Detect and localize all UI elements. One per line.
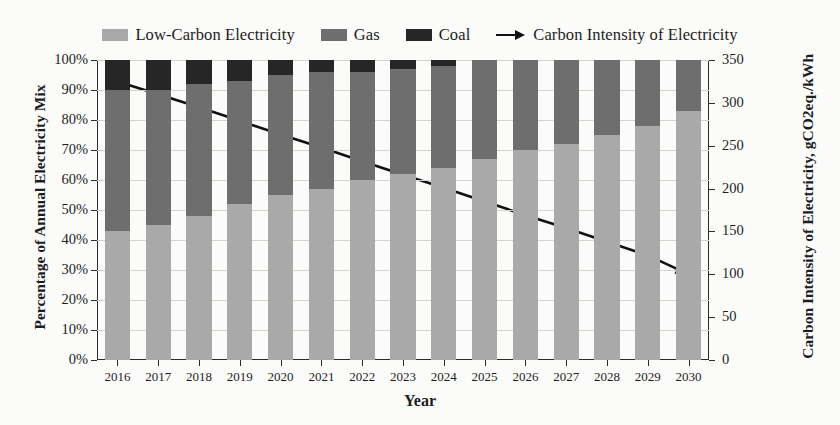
y-axis-right-tick-mark	[709, 146, 715, 147]
bar-segment-gas[interactable]	[431, 66, 456, 168]
bar-segment-coal[interactable]	[309, 60, 334, 72]
bar-segment-gas[interactable]	[594, 60, 619, 135]
bar-stack-2019[interactable]	[227, 60, 252, 360]
x-axis-tick-mark	[321, 360, 322, 366]
bar-segment-coal[interactable]	[268, 60, 293, 75]
bar-segment-coal[interactable]	[186, 60, 211, 84]
y-axis-left-tick-label: 90%	[61, 82, 88, 97]
bar-stack-2020[interactable]	[268, 60, 293, 360]
bar-segment-gas[interactable]	[268, 75, 293, 195]
legend-item-3[interactable]: Carbon Intensity of Electricity	[496, 25, 737, 45]
legend-item-0[interactable]: Low-Carbon Electricity	[102, 25, 294, 45]
x-axis-tick-label: 2030	[664, 369, 714, 385]
bar-segment-gas[interactable]	[513, 60, 538, 150]
bar-segment-gas[interactable]	[227, 81, 252, 204]
y-axis-right-tick-label: 250	[722, 138, 744, 153]
x-axis-tick-mark	[362, 360, 363, 366]
y-axis-right-tick-mark	[709, 231, 715, 232]
legend-item-label: Gas	[354, 25, 380, 45]
bar-segment-gas[interactable]	[186, 84, 211, 216]
bar-stack-2022[interactable]	[350, 60, 375, 360]
bar-segment-gas[interactable]	[105, 90, 130, 231]
bar-segment-gas[interactable]	[472, 60, 497, 159]
bar-segment-low-carbon-electricity[interactable]	[513, 150, 538, 360]
y-axis-right-tick-mark	[709, 317, 715, 318]
bar-segment-low-carbon-electricity[interactable]	[472, 159, 497, 360]
bar-segment-gas[interactable]	[676, 60, 701, 111]
y-axis-left-tick-label: 100%	[54, 52, 88, 67]
bar-stack-2030[interactable]	[676, 60, 701, 360]
bar-segment-low-carbon-electricity[interactable]	[350, 180, 375, 360]
legend-swatch-icon	[102, 29, 128, 41]
bar-stack-2023[interactable]	[390, 60, 415, 360]
bar-segment-gas[interactable]	[554, 60, 579, 144]
x-axis-tick-mark	[444, 360, 445, 366]
y-axis-left-tick-label: 50%	[61, 202, 88, 217]
y-axis-left-tick-label: 30%	[61, 262, 88, 277]
bar-segment-coal[interactable]	[227, 60, 252, 81]
legend-swatch-icon	[321, 29, 347, 41]
legend-item-2[interactable]: Coal	[406, 25, 471, 45]
y-axis-right-tick-label: 100	[722, 266, 744, 281]
bar-stack-2016[interactable]	[105, 60, 130, 360]
y-axis-left-tick-mark	[91, 120, 97, 121]
bar-segment-gas[interactable]	[146, 90, 171, 225]
x-axis-tick-mark	[240, 360, 241, 366]
y-axis-left-tick-label: 40%	[61, 232, 88, 247]
plot-area: 0%10%20%30%40%50%60%70%80%90%100%0501001…	[97, 60, 709, 360]
legend-item-label: Coal	[439, 25, 471, 45]
bar-stack-2021[interactable]	[309, 60, 334, 360]
y-axis-right-tick-label: 200	[722, 181, 744, 196]
bar-segment-low-carbon-electricity[interactable]	[594, 135, 619, 360]
bar-segment-low-carbon-electricity[interactable]	[309, 189, 334, 360]
bar-segment-low-carbon-electricity[interactable]	[146, 225, 171, 360]
bar-stack-2017[interactable]	[146, 60, 171, 360]
bar-segment-low-carbon-electricity[interactable]	[431, 168, 456, 360]
y-axis-right-tick-label: 50	[722, 309, 737, 324]
bar-segment-low-carbon-electricity[interactable]	[635, 126, 660, 360]
x-axis-tick-mark	[566, 360, 567, 366]
bar-stack-2026[interactable]	[513, 60, 538, 360]
bar-segment-low-carbon-electricity[interactable]	[268, 195, 293, 360]
bar-segment-coal[interactable]	[350, 60, 375, 72]
legend-item-1[interactable]: Gas	[321, 25, 380, 45]
y-axis-right-tick-label: 300	[722, 95, 744, 110]
y-axis-left-tick-mark	[91, 210, 97, 211]
bar-segment-low-carbon-electricity[interactable]	[105, 231, 130, 360]
page-bleed-text	[150, 2, 570, 15]
bar-segment-low-carbon-electricity[interactable]	[390, 174, 415, 360]
bar-stack-2027[interactable]	[554, 60, 579, 360]
y-axis-left-tick-label: 60%	[61, 172, 88, 187]
y-axis-left-tick-mark	[91, 240, 97, 241]
y-axis-right-tick-label: 150	[722, 223, 744, 238]
y-axis-left-tick-mark	[91, 300, 97, 301]
bar-segment-low-carbon-electricity[interactable]	[186, 216, 211, 360]
y-axis-right-tick-label: 350	[722, 52, 744, 67]
bar-segment-coal[interactable]	[105, 60, 130, 90]
x-axis-tick-mark	[648, 360, 649, 366]
bar-stack-2018[interactable]	[186, 60, 211, 360]
y-axis-right-title: Carbon Intensity of Electricity, gCO2eq.…	[800, 46, 817, 366]
bar-segment-coal[interactable]	[431, 60, 456, 66]
legend-item-label: Low-Carbon Electricity	[135, 25, 294, 45]
bar-segment-coal[interactable]	[390, 60, 415, 69]
y-axis-right-tick-mark	[709, 360, 715, 361]
bar-stack-2024[interactable]	[431, 60, 456, 360]
bar-stack-2028[interactable]	[594, 60, 619, 360]
bar-segment-gas[interactable]	[309, 72, 334, 189]
bar-segment-low-carbon-electricity[interactable]	[554, 144, 579, 360]
x-axis-tick-mark	[158, 360, 159, 366]
x-axis-tick-mark	[607, 360, 608, 366]
bar-segment-low-carbon-electricity[interactable]	[676, 111, 701, 360]
bar-segment-coal[interactable]	[146, 60, 171, 90]
y-axis-left-tick-mark	[91, 180, 97, 181]
x-axis-tick-mark	[281, 360, 282, 366]
bar-stack-2025[interactable]	[472, 60, 497, 360]
bar-segment-gas[interactable]	[350, 72, 375, 180]
bar-segment-gas[interactable]	[635, 60, 660, 126]
bar-segment-gas[interactable]	[390, 69, 415, 174]
y-axis-left-tick-mark	[91, 150, 97, 151]
x-axis-tick-mark	[525, 360, 526, 366]
bar-segment-low-carbon-electricity[interactable]	[227, 204, 252, 360]
bar-stack-2029[interactable]	[635, 60, 660, 360]
